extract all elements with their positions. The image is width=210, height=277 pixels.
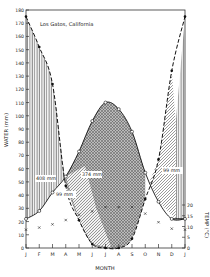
svg-text:110: 110 [15, 101, 24, 106]
svg-text:15: 15 [187, 214, 193, 219]
svg-text:D: D [170, 252, 174, 257]
svg-text:S: S [130, 252, 133, 257]
svg-text:A: A [117, 252, 121, 257]
svg-text:140: 140 [15, 61, 24, 66]
svg-text:50: 50 [18, 180, 24, 185]
svg-text:160: 160 [15, 34, 24, 39]
svg-text:F: F [38, 252, 41, 257]
svg-text:90: 90 [18, 127, 24, 132]
water-balance-chart: 0102030405060708090100110120130140150160… [0, 0, 210, 277]
svg-text:180: 180 [15, 8, 24, 13]
svg-text:60: 60 [18, 167, 24, 172]
svg-text:M: M [77, 252, 81, 257]
svg-text:10: 10 [18, 233, 24, 238]
svg-text:150: 150 [15, 48, 24, 53]
svg-text:10: 10 [187, 225, 193, 230]
x-axis-label: MONTH [95, 265, 115, 271]
annotation-label: 99 mm [163, 168, 180, 173]
svg-text:30: 30 [18, 206, 24, 211]
svg-text:130: 130 [15, 74, 24, 79]
svg-text:120: 120 [15, 87, 24, 92]
svg-text:0: 0 [21, 246, 24, 251]
svg-text:M: M [50, 252, 54, 257]
svg-text:170: 170 [15, 21, 24, 26]
shaded-regions [26, 17, 185, 249]
y-axis-right-label: TEMP (°C) [204, 211, 210, 238]
svg-text:20: 20 [187, 203, 193, 208]
chart-title: Los Gatos, California [40, 21, 93, 27]
svg-text:100: 100 [15, 114, 24, 119]
svg-text:J: J [24, 252, 26, 257]
svg-text:A: A [64, 252, 68, 257]
svg-text:O: O [143, 252, 147, 257]
svg-text:40: 40 [18, 193, 24, 198]
svg-text:J: J [104, 252, 106, 257]
svg-text:J: J [183, 252, 185, 257]
annotation-label: 374 mm [82, 172, 102, 177]
svg-text:N: N [157, 252, 161, 257]
y-axis-label: WATER (mm) [3, 113, 9, 147]
svg-text:0: 0 [187, 246, 190, 251]
svg-text:20: 20 [18, 220, 24, 225]
svg-text:80: 80 [18, 140, 24, 145]
annotation-label: 408 mm [36, 176, 56, 181]
annotation-label: 99 mm [56, 192, 73, 197]
svg-text:J: J [91, 252, 93, 257]
svg-text:5: 5 [187, 235, 190, 240]
svg-text:70: 70 [18, 153, 24, 158]
